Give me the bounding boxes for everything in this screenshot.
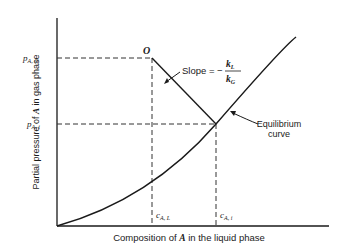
x-tick-cAL: cA, L [156, 210, 171, 221]
equilibrium-arrow [233, 113, 258, 124]
slope-numerator: kL [226, 59, 235, 70]
equilibrium-label-line2: curve [268, 129, 290, 139]
equilibrium-label: Equilibrium [257, 119, 302, 129]
slope-arrowhead [164, 78, 169, 84]
slope-denominator: kG [226, 74, 236, 85]
point-o-label: O [143, 45, 150, 56]
equilibrium-curve [57, 37, 296, 226]
y-axis-label: Partial pressure of A in gas phase [31, 54, 41, 189]
mass-transfer-diagram: Partial pressure of A in gas phase pA, G… [0, 0, 343, 252]
x-axis-label: Composition of A in the liquid phase [113, 232, 265, 243]
x-tick-cAi: cA, i [220, 210, 233, 221]
slope-label: Slope = − [182, 65, 223, 76]
